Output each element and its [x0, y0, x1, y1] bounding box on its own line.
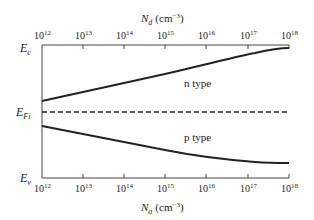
top-axis-ticks: [83, 45, 289, 49]
p-type-label: p type: [184, 131, 211, 143]
top-tick-label: 1014: [116, 29, 134, 41]
bottom-tick-label: 1017: [240, 182, 258, 194]
efi-label: EFi: [15, 105, 30, 121]
bottom-tick-label: 1012: [34, 182, 52, 194]
top-tick-labels: 1012 1013 1014 1015 1016 1017 1018: [34, 29, 299, 41]
n-type-curve: [42, 48, 289, 101]
bottom-tick-label: 1016: [198, 182, 216, 194]
ec-label: Ec: [19, 41, 31, 57]
top-tick-label: 1013: [75, 29, 93, 41]
p-type-curve: [42, 126, 289, 163]
n-type-label: n type: [184, 77, 211, 89]
top-tick-label: 1018: [281, 29, 299, 41]
bottom-tick-label: 1018: [281, 182, 299, 194]
top-tick-label: 1012: [34, 29, 52, 41]
bottom-tick-label: 1015: [157, 182, 175, 194]
fermi-level-diagram: 1012 1013 1014 1015 1016 1017 1018 1012 …: [0, 0, 314, 220]
top-tick-label: 1016: [198, 29, 216, 41]
bottom-axis-ticks: [83, 174, 289, 178]
bottom-tick-labels: 1012 1013 1014 1015 1016 1017 1018: [34, 182, 299, 194]
bottom-tick-label: 1014: [116, 182, 134, 194]
ev-label: Ev: [19, 171, 31, 187]
top-axis-title: Nd(cm−3): [140, 12, 184, 27]
bottom-tick-label: 1013: [75, 182, 93, 194]
bottom-axis-title: Na(cm−3): [140, 201, 184, 216]
top-tick-label: 1015: [157, 29, 175, 41]
top-tick-label: 1017: [240, 29, 258, 41]
